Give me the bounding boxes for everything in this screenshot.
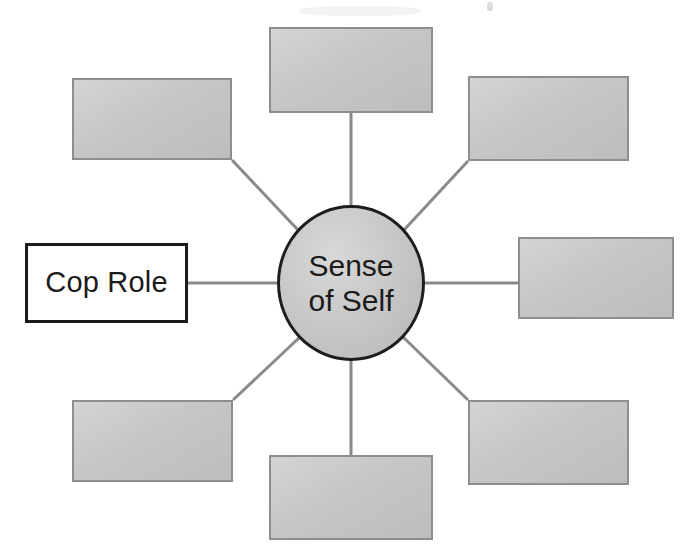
- node-bottom-right[interactable]: [468, 400, 629, 485]
- connector-top-right: [404, 161, 468, 230]
- node-left-cop-role-label: Cop Role: [45, 267, 168, 299]
- scan-artifact-smudge: [300, 6, 420, 16]
- node-left-cop-role[interactable]: Cop Role: [25, 243, 188, 323]
- node-top[interactable]: [269, 27, 433, 113]
- node-top-right[interactable]: [468, 76, 629, 161]
- node-bottom-left[interactable]: [72, 400, 233, 482]
- concept-map-diagram: Cop Role Sense of Self: [0, 0, 699, 560]
- connector-bottom-left: [233, 337, 300, 400]
- node-top-left[interactable]: [72, 78, 232, 160]
- node-bottom[interactable]: [269, 455, 433, 540]
- center-node-label: Sense of Self: [308, 248, 393, 319]
- connector-bottom-right: [403, 337, 468, 400]
- center-node-sense-of-self[interactable]: Sense of Self: [277, 205, 425, 361]
- connector-top-left: [232, 160, 298, 230]
- scan-artifact-speck: [487, 2, 493, 11]
- node-right[interactable]: [518, 237, 674, 319]
